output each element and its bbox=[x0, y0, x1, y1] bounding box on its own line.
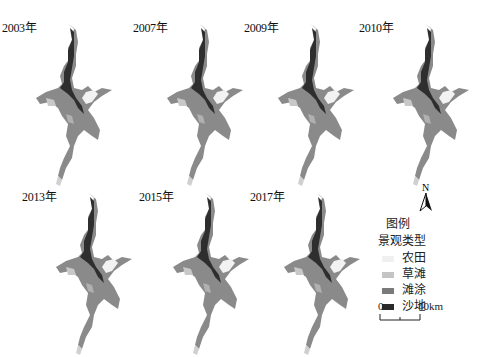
legend-subtitle: 景观类型 bbox=[378, 231, 426, 249]
legend-item-farmland: 农田 bbox=[382, 248, 426, 262]
grassland-swatch bbox=[382, 272, 394, 278]
year-label: 2007年 bbox=[133, 18, 168, 36]
lake-map-2017 bbox=[250, 187, 370, 357]
lake-map-2003 bbox=[2, 18, 122, 188]
year-label: 2003年 bbox=[2, 18, 37, 36]
map-panel-2015: 2015年 bbox=[139, 187, 259, 357]
lake-map-2009 bbox=[244, 18, 364, 188]
legend-item-grassland: 草滩 bbox=[382, 264, 426, 278]
year-label: 2010年 bbox=[359, 18, 394, 36]
scale-end: 40km bbox=[418, 300, 443, 312]
year-label: 2015年 bbox=[139, 187, 174, 205]
year-label: 2009年 bbox=[244, 18, 279, 36]
legend-title: 图例 bbox=[386, 214, 410, 232]
lake-map-2013 bbox=[22, 187, 142, 357]
scale-bar: 0 40km bbox=[376, 300, 446, 324]
map-panel-2009: 2009年 bbox=[244, 18, 364, 188]
north-arrow-icon bbox=[418, 193, 434, 213]
map-panel-2013: 2013年 bbox=[22, 187, 142, 357]
north-label: N bbox=[422, 182, 429, 193]
lake-map-2010 bbox=[359, 18, 479, 188]
lake-map-2007 bbox=[133, 18, 253, 188]
year-label: 2017年 bbox=[250, 187, 285, 205]
farmland-swatch bbox=[382, 256, 394, 262]
map-panel-2010: 2010年 bbox=[359, 18, 479, 188]
legend-item-mudflat: 滩涂 bbox=[382, 280, 426, 294]
scale-bar-line bbox=[379, 314, 439, 322]
scale-start: 0 bbox=[378, 300, 384, 312]
year-label: 2013年 bbox=[22, 187, 57, 205]
map-panel-2007: 2007年 bbox=[133, 18, 253, 188]
map-panel-2003: 2003年 bbox=[2, 18, 122, 188]
mudflat-swatch bbox=[382, 288, 394, 294]
north-arrow: N bbox=[418, 182, 434, 212]
lake-map-2015 bbox=[139, 187, 259, 357]
map-panel-2017: 2017年 bbox=[250, 187, 370, 357]
